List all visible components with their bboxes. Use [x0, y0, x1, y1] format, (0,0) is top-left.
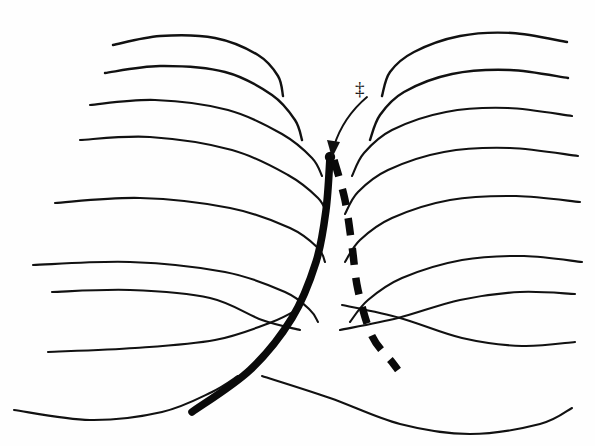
- valley-contour-c-right: [262, 376, 572, 434]
- right-peak-contour-5: [345, 196, 580, 262]
- right-peak-contour-3: [352, 108, 572, 176]
- right-peak-contour-6: [350, 256, 582, 322]
- left-peak-contour-5: [55, 198, 325, 262]
- reaction-path-group: [192, 157, 398, 412]
- pointer-arrow: [327, 97, 367, 158]
- right-peak-contour-2: [370, 70, 568, 140]
- contour-surface-svg: [0, 0, 595, 446]
- valley-contour-a-left: [52, 290, 300, 330]
- right-peak-contour-group: [345, 33, 582, 322]
- reaction-path-solid: [192, 157, 330, 412]
- transition-state-symbol-label: ‡: [355, 79, 365, 98]
- right-peak-contour-4: [345, 148, 578, 214]
- right-peak-contour-1: [382, 33, 567, 96]
- valley-contour-b-left: [48, 308, 300, 352]
- potential-energy-surface-figure: ‡: [0, 0, 595, 446]
- reaction-path-dashed: [334, 160, 398, 370]
- pointer-arrow-line: [334, 97, 367, 146]
- valley-contour-c-left: [14, 376, 238, 420]
- valley-contour-a-right: [340, 292, 575, 330]
- left-peak-contour-group: [33, 35, 327, 322]
